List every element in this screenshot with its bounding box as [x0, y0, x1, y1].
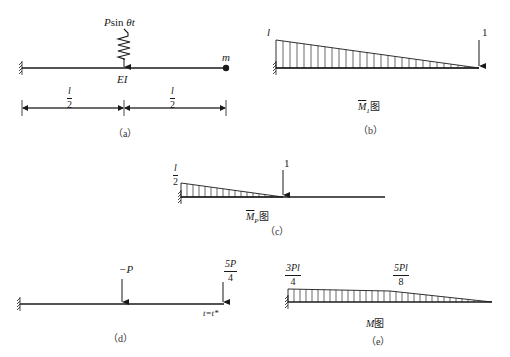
spring-icon	[118, 29, 130, 60]
unit-load-label: 1	[482, 27, 488, 38]
left-moment-value: 3Pl4	[285, 263, 301, 287]
unit-load-label: 1	[284, 158, 290, 169]
hatch-lines	[294, 289, 486, 302]
force-label: Psin θt	[104, 17, 135, 28]
mass-point	[223, 65, 229, 71]
fixed-support-icon	[17, 297, 20, 311]
diagram-canvas	[0, 0, 510, 357]
panel-b-moment-diagram	[273, 40, 479, 75]
panel-e-moment-diagram	[285, 289, 492, 309]
dimension-right-label: l2	[170, 86, 175, 110]
max-moment-label: l	[267, 27, 270, 38]
caption-c: （c）	[265, 223, 289, 238]
end-load-label: 5P4	[224, 259, 237, 283]
diagram-label: M图	[366, 315, 384, 330]
caption-e: （e）	[366, 333, 390, 348]
caption-b: （b）	[358, 122, 383, 137]
dimension-line	[22, 100, 226, 116]
panel-c-moment-diagram	[178, 170, 385, 204]
max-moment-label: l2	[173, 163, 178, 187]
caption-d: （d）	[108, 330, 133, 345]
moment-area	[276, 40, 479, 68]
mid-moment-value: 5Pl8	[393, 263, 409, 287]
mid-load-label: −P	[119, 264, 133, 275]
dimension-left-label: l2	[67, 86, 72, 110]
hatch-lines	[283, 41, 472, 68]
diagram-label: M1图	[358, 98, 380, 115]
panel-d-loads	[17, 279, 224, 311]
moment-area	[181, 183, 283, 197]
caption-a: （a）	[113, 125, 137, 140]
mass-label: m	[222, 52, 230, 63]
stiffness-label: EI	[117, 74, 127, 85]
fixed-support-icon	[19, 61, 22, 75]
time-label: t=t*	[203, 309, 219, 318]
